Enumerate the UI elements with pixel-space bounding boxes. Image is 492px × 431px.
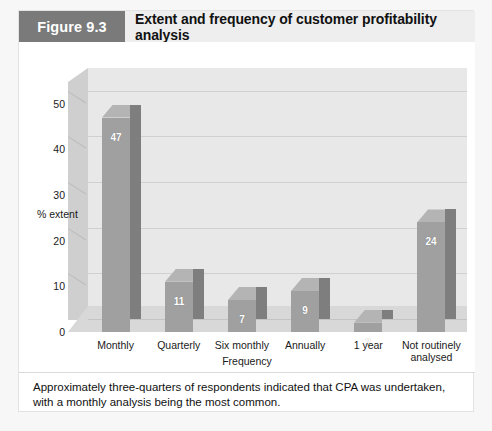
gridline — [88, 182, 467, 183]
bar-value-label: 24 — [417, 236, 445, 247]
bar-side-face — [382, 310, 393, 319]
figure-number-tag: Figure 9.3 — [19, 11, 125, 42]
y-axis-tick-label: 0 — [39, 326, 65, 338]
figure-caption: Approximately three-quarters of responde… — [33, 380, 461, 410]
bar-value-label: 47 — [102, 132, 130, 143]
figure-frame: Figure 9.3 Extent and frequency of custo… — [18, 10, 474, 412]
bar-value-label: 9 — [291, 305, 319, 316]
bar-top-face — [228, 287, 256, 300]
chart-3d-scene: 471179224 01020304050 MonthlyQuarterlySi… — [19, 42, 475, 372]
caption-divider — [19, 372, 475, 373]
y-axis-label: % extent — [37, 208, 78, 220]
gridline — [88, 91, 467, 92]
chart-floor-edge — [88, 319, 467, 320]
bar-value-label: 11 — [165, 296, 193, 307]
bar-front-face — [354, 323, 382, 332]
bar-side-face — [193, 269, 204, 319]
bar — [354, 310, 393, 332]
bar-top-face — [165, 269, 193, 282]
bar-side-face — [445, 209, 456, 319]
chart-back-wall — [88, 68, 467, 320]
figure-title: Extent and frequency of customer profita… — [135, 11, 475, 42]
gridline — [88, 273, 467, 274]
bar-top-face — [354, 310, 382, 323]
y-axis-tick-label: 20 — [39, 235, 65, 247]
bar-top-face — [417, 209, 445, 222]
y-axis-tick-label: 50 — [39, 98, 65, 110]
bar-side-face — [256, 287, 267, 319]
chart-panel: 471179224 01020304050 MonthlyQuarterlySi… — [19, 42, 475, 372]
bar-top-face — [291, 278, 319, 291]
x-axis-label: Frequency — [19, 355, 475, 367]
figure-header: Figure 9.3 Extent and frequency of custo… — [19, 11, 475, 42]
y-axis-tick-label: 30 — [39, 189, 65, 201]
gridline — [88, 136, 467, 137]
bar-value-label: 7 — [228, 314, 256, 325]
bar — [417, 209, 456, 332]
bar-front-face — [165, 282, 193, 332]
bar — [228, 287, 267, 332]
y-axis-tick-label: 40 — [39, 143, 65, 155]
bar-top-face — [102, 105, 130, 118]
y-axis-tick-label: 10 — [39, 280, 65, 292]
bar-front-face — [102, 118, 130, 332]
gridline — [88, 228, 467, 229]
bar-side-face — [130, 105, 141, 319]
bar-side-face — [319, 278, 330, 319]
